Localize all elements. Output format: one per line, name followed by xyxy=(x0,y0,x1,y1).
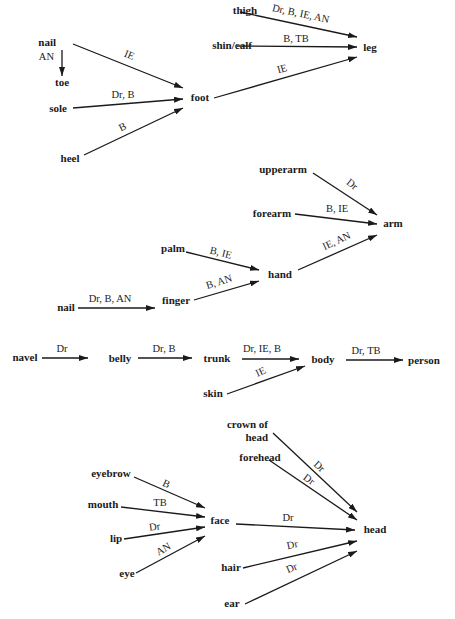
edge-label: Dr xyxy=(344,176,360,192)
node-face: face xyxy=(211,514,230,526)
edge-label: Dr, IE, B xyxy=(243,343,281,354)
edge-label: B, AN xyxy=(205,272,234,290)
arrow-icon xyxy=(84,108,183,155)
node-hand: hand xyxy=(268,268,292,280)
arrow-icon xyxy=(124,527,205,539)
edge-label: IE xyxy=(276,62,289,75)
edge-heel-to-foot: B xyxy=(84,108,183,155)
partonomy-diagram: IEANDr, BBDr, B, IE, ANB, TBIEDrB, IEIE,… xyxy=(0,0,455,619)
edge-crown-to-head: Dr xyxy=(273,433,357,512)
edge-label: B, IE xyxy=(326,203,348,214)
node-label: crown of xyxy=(227,418,268,430)
edge-label: TB xyxy=(153,497,166,508)
node-sole: sole xyxy=(49,102,67,114)
node-ear: ear xyxy=(224,597,239,609)
arrow-icon xyxy=(237,46,357,47)
edge-label: AN xyxy=(39,51,55,62)
node-leg: leg xyxy=(363,41,377,53)
edge-nail1-to-foot: IE xyxy=(73,44,183,88)
node-nail2: nail xyxy=(57,301,75,313)
edge-label: Dr xyxy=(301,471,317,487)
node-belly: belly xyxy=(109,352,132,364)
edge-finger-to-hand: B, AN xyxy=(194,272,259,300)
node-crown: crown ofhead xyxy=(227,418,268,443)
node-heel: heel xyxy=(61,152,80,164)
edge-palm-to-hand: B, IE xyxy=(186,245,259,270)
node-mouth: mouth xyxy=(88,498,119,510)
node-navel: navel xyxy=(12,351,37,363)
edge-eye-to-face: AN xyxy=(136,536,205,573)
edge-thigh-to-leg: Dr, B, IE, AN xyxy=(240,2,357,37)
edge-label: Dr, B, AN xyxy=(89,293,132,304)
edge-label: Dr, B xyxy=(112,89,135,100)
node-person: person xyxy=(408,354,440,366)
edge-hand-to-arm: IE, AN xyxy=(298,229,377,270)
edge-navel-to-belly: Dr xyxy=(42,343,88,358)
node-forearm: forearm xyxy=(253,207,291,219)
edge-label: Dr, TB xyxy=(351,345,380,356)
node-label: head xyxy=(245,431,268,443)
node-lip: lip xyxy=(110,532,122,544)
edge-label: IE xyxy=(123,48,136,62)
edge-face-to-head: Dr xyxy=(236,512,355,530)
node-nail1: nail xyxy=(38,36,56,48)
arrow-icon xyxy=(136,536,205,573)
edge-label: B, TB xyxy=(283,33,308,44)
edge-label: IE, AN xyxy=(321,229,353,252)
edge-label: IE xyxy=(254,365,268,379)
edge-forehead-to-head: Dr xyxy=(269,460,357,520)
edge-label: Dr xyxy=(286,538,300,551)
node-thigh: thigh xyxy=(233,4,257,16)
edge-label: Dr xyxy=(282,512,294,523)
edge-forearm-to-arm: B, IE xyxy=(295,203,377,224)
edge-eyebrow-to-face: B xyxy=(134,477,205,508)
node-foot: foot xyxy=(191,91,210,103)
edge-nail1-to-toe: AN xyxy=(39,50,62,76)
arrow-icon xyxy=(243,541,357,568)
node-eye: eye xyxy=(119,567,134,579)
arrow-icon xyxy=(269,460,357,520)
edge-label: Dr, B xyxy=(153,343,176,354)
node-body: body xyxy=(311,353,335,365)
node-palm: palm xyxy=(161,242,185,254)
arrow-icon xyxy=(121,507,205,517)
arrow-icon xyxy=(227,366,305,394)
node-finger: finger xyxy=(162,294,190,306)
arrow-icon xyxy=(295,214,377,224)
node-head: head xyxy=(364,523,387,535)
node-toe: toe xyxy=(55,76,69,88)
arrow-icon xyxy=(73,99,183,108)
edge-label: B xyxy=(161,477,172,490)
edge-sole-to-foot: Dr, B xyxy=(73,89,183,108)
node-shin: shin/calf xyxy=(212,39,252,51)
edge-lip-to-face: Dr xyxy=(124,520,205,539)
edge-foot-to-leg: IE xyxy=(214,57,357,98)
edge-hair-to-head: Dr xyxy=(243,538,357,568)
edge-trunk-to-body: Dr, IE, B xyxy=(242,343,299,359)
edge-ear-to-head: Dr xyxy=(245,551,357,604)
edge-label: Dr xyxy=(148,520,161,532)
edge-belly-to-trunk: Dr, B xyxy=(138,343,192,358)
node-forehead: forehead xyxy=(239,451,280,463)
edge-label: B xyxy=(117,120,128,133)
edge-label: Dr, B, IE, AN xyxy=(271,2,330,25)
edge-skin-to-body: IE xyxy=(227,365,305,394)
node-eyebrow: eyebrow xyxy=(91,467,131,479)
edge-label: Dr xyxy=(56,343,68,354)
edge-nail2-to-finger: Dr, B, AN xyxy=(78,293,155,308)
node-trunk: trunk xyxy=(204,352,232,364)
node-hair: hair xyxy=(221,561,241,573)
node-arm: arm xyxy=(383,217,403,229)
node-upperarm: upperarm xyxy=(259,163,307,175)
edge-shin-to-leg: B, TB xyxy=(237,33,357,47)
arrow-icon xyxy=(236,524,355,530)
arrow-icon xyxy=(245,551,357,604)
edge-label: Dr xyxy=(284,560,299,575)
node-skin: skin xyxy=(203,387,223,399)
arrow-icon xyxy=(273,433,357,512)
edge-mouth-to-face: TB xyxy=(121,497,205,517)
edge-body-to-person: Dr, TB xyxy=(346,345,403,360)
